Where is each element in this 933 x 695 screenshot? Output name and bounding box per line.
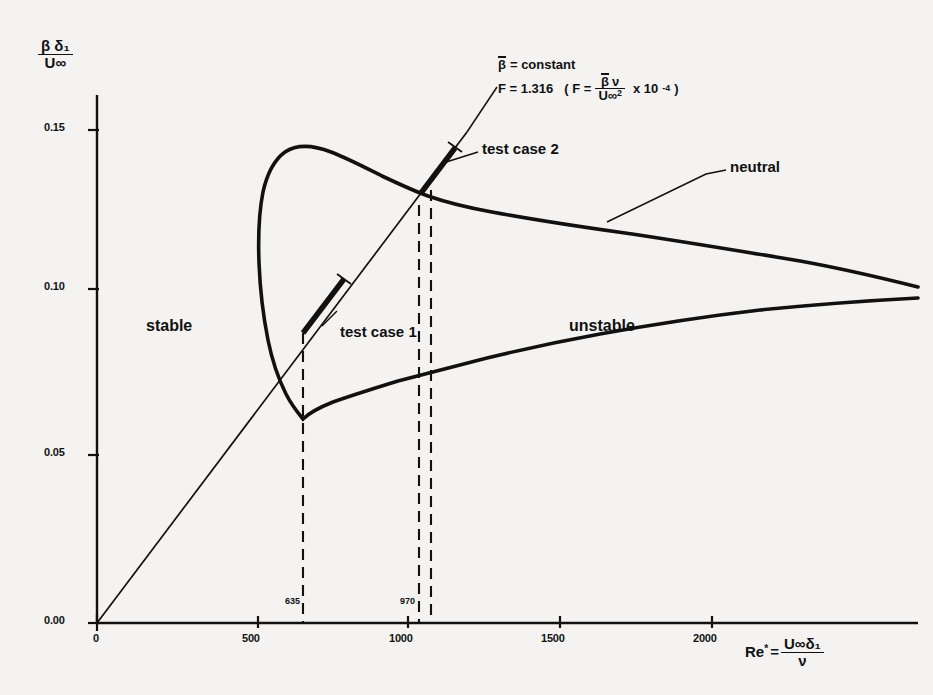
nu-symbol: ν [612,75,619,89]
test-case-2-segment [421,148,455,193]
y-tick-label-0.00: 0.00 [44,615,65,627]
y-tick-label-0.15: 0.15 [44,122,65,134]
formula-line-1: β = constant [498,58,678,72]
reference-label-635: 635 [285,597,300,606]
U-inf-exponent: 2 [617,88,622,98]
y-axis-denominator: U∞ [38,54,73,71]
region-label-stable: stable [146,318,192,335]
leader-line-annotation [467,87,497,132]
stability-diagram: β δ₁ U∞ 0.15 0.10 0.05 0.00 0 500 1000 1… [0,0,933,695]
x-tick-label-1500: 1500 [541,633,565,645]
formula-exponent: -4 [662,84,670,93]
y-axis-numerator: β δ₁ [38,38,73,54]
label-test-case-1: test case 1 [340,324,417,340]
beta-bar-symbol-2: β [601,75,609,89]
x-tick-label-500: 500 [242,633,260,645]
y-axis-title: β δ₁ U∞ [38,38,73,71]
reference-label-970: 970 [400,597,415,606]
label-test-case-2: test case 2 [482,141,559,157]
formula-tail: x 10 [633,82,658,96]
x-tick-label-1000: 1000 [389,633,413,645]
formula-paren-close: ) [674,82,678,96]
formula-paren-open: ( F = [564,82,591,96]
region-label-unstable: unstable [569,318,635,335]
beta-bar-symbol: β [498,58,506,72]
x-axis-title: Re* = U∞δ₁ ν [745,636,824,669]
y-tick-label-0.05: 0.05 [44,447,65,459]
formula-F-value: F = 1.316 [498,82,553,96]
y-tick-label-0.10: 0.10 [44,281,65,293]
formula-fraction: β ν U∞2 [595,75,625,103]
formula-line-1-text: = constant [510,58,575,72]
formula-annotation: β = constant F = 1.316 ( F = β ν U∞2 x 1… [498,58,678,103]
x-tick-label-0: 0 [93,633,99,645]
x-tick-label-2000: 2000 [693,633,717,645]
formula-line-2: F = 1.316 ( F = β ν U∞2 x 10-4 ) [498,75,678,103]
neutral-stability-curve [259,146,918,419]
x-axis-title-lead: Re* [745,644,768,660]
curve-label-neutral: neutral [730,159,780,175]
U-inf-symbol: U∞ [598,88,617,103]
leader-line-neutral [607,170,726,222]
x-axis-title-fraction: U∞δ₁ ν [781,636,824,669]
x-axis-title-equals: = [770,644,779,660]
plot-canvas [0,0,933,695]
